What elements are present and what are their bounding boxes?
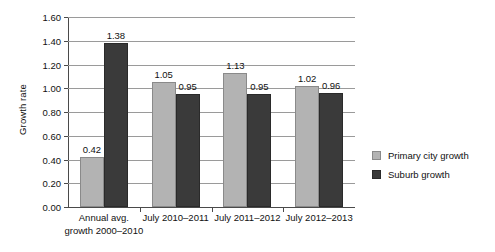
y-axis-tick-label: 1.00 xyxy=(43,83,62,94)
y-axis-title: Growth rate xyxy=(17,50,28,170)
bar-chart: Growth rate 0.000.200.400.600.801.001.20… xyxy=(0,0,495,252)
bar-value-label: 1.13 xyxy=(226,60,245,71)
y-axis-tick-label: 1.40 xyxy=(43,35,62,46)
y-axis-tick xyxy=(64,112,68,113)
y-axis-tick xyxy=(64,41,68,42)
bar-primary-city xyxy=(152,82,176,207)
y-axis-tick xyxy=(64,160,68,161)
y-axis-tick xyxy=(64,88,68,89)
y-axis-tick xyxy=(64,17,68,18)
legend-item-primary-city-growth: Primary city growth xyxy=(372,146,492,165)
y-axis-tick-label: 0.20 xyxy=(43,178,62,189)
gridline xyxy=(68,17,355,18)
bar-value-label: 1.05 xyxy=(154,69,173,80)
legend-label: Suburb growth xyxy=(388,169,450,180)
legend-swatch-icon xyxy=(372,151,381,160)
bar-value-label: 1.38 xyxy=(107,30,126,41)
bar-value-label: 0.95 xyxy=(250,81,269,92)
chart-legend: Primary city growthSuburb growth xyxy=(372,146,492,184)
bar-suburb xyxy=(104,43,128,207)
y-axis-tick-label: 1.20 xyxy=(43,59,62,70)
y-axis-tick-label: 1.60 xyxy=(43,12,62,23)
y-axis-tick xyxy=(64,183,68,184)
bar-suburb xyxy=(319,93,343,207)
x-axis-category-label: July 2012–2013 xyxy=(264,212,374,225)
legend-label: Primary city growth xyxy=(388,150,469,161)
bar-value-label: 0.42 xyxy=(83,144,102,155)
legend-item-suburb-growth: Suburb growth xyxy=(372,165,492,184)
bar-primary-city xyxy=(223,73,247,207)
y-axis-tick-label: 0.40 xyxy=(43,154,62,165)
y-axis-tick xyxy=(64,207,68,208)
bar-suburb xyxy=(247,94,271,207)
y-axis-tick-label: 0.60 xyxy=(43,130,62,141)
y-axis-tick xyxy=(64,65,68,66)
y-axis-tick-label: 0.80 xyxy=(43,107,62,118)
plot-area: 0.000.200.400.600.801.001.201.401.60 0.4… xyxy=(68,17,355,207)
bar-suburb xyxy=(176,94,200,207)
bar-value-label: 1.02 xyxy=(298,73,317,84)
bar-primary-city xyxy=(80,157,104,207)
bar-value-label: 0.96 xyxy=(322,80,341,91)
x-axis-category-label-line: July 2012–2013 xyxy=(264,212,374,225)
y-axis-tick xyxy=(64,136,68,137)
y-axis-tick-label: 0.00 xyxy=(43,202,62,213)
bar-value-label: 0.95 xyxy=(178,81,197,92)
legend-swatch-icon xyxy=(372,170,381,179)
x-axis-category-label-line: growth 2000–2010 xyxy=(49,225,159,238)
bar-primary-city xyxy=(295,86,319,207)
